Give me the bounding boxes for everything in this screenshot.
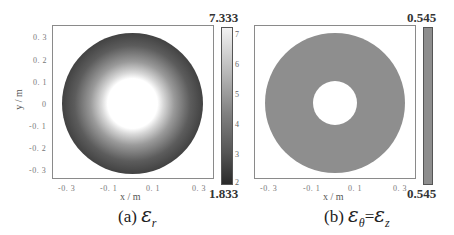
colorbar-a [221,27,233,185]
colorbar-tick: 7 [235,30,239,39]
epsilon-theta-symbol: ε [348,203,359,227]
x-tick: 0. 3 [192,184,206,193]
colorbar-tick: 5 [235,90,239,99]
colorbar-tick: 3 [235,150,239,159]
colorbar-b [423,27,433,185]
epsilon-z-symbol: ε [374,203,385,227]
x-tick: 0. 1 [348,184,362,193]
x-tick: -0. 3 [260,184,277,193]
caption-b: (b) εθ=εz [324,203,390,231]
x-tick: -0. 1 [303,184,320,193]
equals-sign: = [365,207,375,226]
annulus-hole [313,81,357,125]
x-tick: -0. 3 [58,184,75,193]
y-tick: -0. 2 [29,144,46,153]
plot-area-a [52,25,214,179]
colorbar-max-label: 7.333 [209,10,238,26]
caption-prefix: (a) [118,207,137,226]
y-tick: -0. 1 [29,122,46,131]
y-tick: 0. 2 [33,56,47,65]
y-tick: 0. 1 [33,78,47,87]
colorbar-max-label: 0.545 [407,10,436,26]
x-axis-label: x / m [323,191,344,202]
caption-prefix: (b) [324,207,344,226]
colorbar-tick: 6 [235,60,239,69]
colorbar-min-label: 0.545 [407,186,436,202]
x-axis-label: x / m [120,191,141,202]
subscript-z: z [385,216,390,230]
y-tick: 0. 3 [33,33,47,42]
x-tick: 0. 3 [393,184,407,193]
y-tick: -0. 3 [29,166,46,175]
plot-area-b [254,25,416,179]
y-axis-label: y / m [13,89,24,110]
y-tick: 0 [42,100,47,109]
colorbar-tick: 4 [235,120,239,129]
subscript: r [152,216,157,230]
colorbar-min-label: 1.833 [209,186,238,202]
annulus-radial-gradient [62,33,203,174]
x-tick: 0. 1 [146,184,160,193]
x-tick: -0. 1 [100,184,117,193]
caption-a: (a) εr [118,203,157,231]
epsilon-symbol: ε [141,203,152,227]
